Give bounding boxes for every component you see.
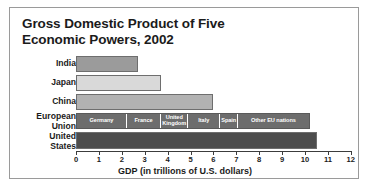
bar-european-union: Germany France United Kingdom Italy Spai… — [76, 113, 310, 129]
category-label-european-union: European Union — [12, 112, 76, 131]
category-label-eu-line-2: Union — [12, 122, 76, 132]
x-axis-title: GDP (in trillions of U.S. dollars) — [10, 166, 360, 176]
plot-area: India Japan China European Union — [10, 54, 360, 180]
segment-label-other-eu-nations: Other EU nations — [251, 118, 296, 124]
bar-india — [76, 56, 138, 72]
chart-title-line-2: Economic Powers, 2002 — [22, 32, 302, 48]
bar-row-japan: Japan — [10, 75, 360, 91]
x-axis-label-0: 0 — [66, 155, 86, 164]
category-label-us-line-2: States — [12, 142, 76, 152]
bar-row-china: China — [10, 94, 360, 110]
category-label-japan: Japan — [12, 78, 76, 88]
category-label-united-states: United States — [12, 132, 76, 151]
segment-france: France — [127, 114, 161, 128]
x-axis-label-6: 6 — [203, 155, 223, 164]
segment-spain: Spain — [220, 114, 238, 128]
x-axis-label-5: 5 — [181, 155, 201, 164]
chart-frame: Gross Domestic Product of Five Economic … — [9, 7, 359, 179]
chart-title-line-1: Gross Domestic Product of Five — [22, 16, 302, 32]
segment-other-eu-nations: Other EU nations — [238, 114, 308, 128]
category-label-india-text: India — [56, 58, 76, 68]
bar-row-united-states: United States — [10, 132, 360, 149]
x-axis-label-9: 9 — [272, 155, 292, 164]
x-axis-label-10: 10 — [295, 155, 315, 164]
category-label-india: India — [12, 59, 76, 69]
x-axis-label-8: 8 — [249, 155, 269, 164]
x-axis-label-7: 7 — [226, 155, 246, 164]
x-axis-label-3: 3 — [135, 155, 155, 164]
segment-label-spain: Spain — [221, 118, 236, 124]
segment-italy: Italy — [188, 114, 220, 128]
category-label-china: China — [12, 97, 76, 107]
x-axis-label-11: 11 — [318, 155, 338, 164]
x-axis-label-4: 4 — [158, 155, 178, 164]
segment-label-italy: Italy — [198, 118, 209, 124]
bar-united-states — [76, 132, 317, 149]
bar-row-european-union: European Union Germany France United Kin… — [10, 113, 360, 129]
segment-label-germany: Germany — [90, 118, 114, 124]
chart-title: Gross Domestic Product of Five Economic … — [22, 16, 302, 47]
segment-united-kingdom: United Kingdom — [161, 114, 188, 128]
bar-china — [76, 94, 213, 110]
segment-label-united-kingdom: United Kingdom — [162, 115, 186, 127]
bar-japan — [76, 75, 161, 91]
x-axis-label-2: 2 — [112, 155, 132, 164]
segment-label-france: France — [135, 118, 153, 124]
x-axis-label-12: 12 — [341, 155, 361, 164]
category-label-china-text: China — [52, 96, 76, 106]
bar-row-india: India — [10, 56, 360, 72]
segment-germany: Germany — [77, 114, 127, 128]
segment-label-uk-line-2: Kingdom — [162, 121, 186, 127]
category-label-japan-text: Japan — [51, 77, 76, 87]
x-axis-label-1: 1 — [89, 155, 109, 164]
